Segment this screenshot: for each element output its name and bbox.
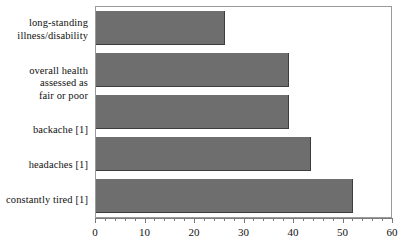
bar-row — [96, 11, 391, 45]
bar — [96, 95, 289, 129]
x-tick-major — [145, 218, 146, 223]
x-tick-major — [194, 218, 195, 223]
x-axis-tick-labels: 0102030405060 — [95, 226, 392, 244]
category-label-line: headaches [1] — [0, 159, 88, 172]
bar-row — [96, 179, 391, 213]
x-tick-major — [392, 218, 393, 223]
x-tick-minor — [313, 218, 314, 221]
category-axis-labels: long-standingillness/disabilityoverall h… — [0, 6, 92, 218]
x-tick-minor — [204, 218, 205, 221]
x-tick-major — [95, 218, 96, 223]
x-tick-major — [293, 218, 294, 223]
x-tick-label: 60 — [387, 226, 398, 238]
bar-row — [96, 95, 391, 129]
bar-chart: long-standingillness/disabilityoverall h… — [0, 0, 411, 252]
category-label-line: backache [1] — [0, 124, 88, 137]
x-tick-minor — [164, 218, 165, 221]
bar-row — [96, 137, 391, 171]
x-tick-minor — [135, 218, 136, 221]
x-tick-minor — [382, 218, 383, 221]
x-tick-label: 0 — [92, 226, 98, 238]
x-tick-minor — [273, 218, 274, 221]
category-label-line: assessed as — [0, 77, 88, 90]
category-label: backache [1] — [0, 124, 92, 137]
category-label-line: fair or poor — [0, 90, 88, 103]
bar — [96, 11, 225, 45]
category-label: headaches [1] — [0, 159, 92, 172]
category-label: overall healthassessed asfair or poor — [0, 65, 92, 103]
x-tick-minor — [303, 218, 304, 221]
x-tick-label: 40 — [288, 226, 299, 238]
x-tick-major — [343, 218, 344, 223]
x-tick-minor — [283, 218, 284, 221]
x-tick-minor — [115, 218, 116, 221]
x-tick-label: 10 — [139, 226, 150, 238]
bar — [96, 137, 311, 171]
category-label-line: illness/disability — [0, 30, 88, 43]
category-label: constantly tired [1] — [0, 194, 92, 207]
plot-area — [95, 6, 392, 218]
x-tick-minor — [105, 218, 106, 221]
x-tick-minor — [333, 218, 334, 221]
x-tick-minor — [362, 218, 363, 221]
bars-container — [96, 7, 391, 217]
bar — [96, 179, 353, 213]
x-tick-minor — [323, 218, 324, 221]
x-tick-minor — [174, 218, 175, 221]
x-tick-minor — [372, 218, 373, 221]
bar-row — [96, 53, 391, 87]
category-label-line: overall health — [0, 65, 88, 78]
x-tick-minor — [234, 218, 235, 221]
x-tick-minor — [224, 218, 225, 221]
x-axis-ticks — [95, 218, 392, 224]
x-tick-label: 30 — [238, 226, 249, 238]
category-label-line: constantly tired [1] — [0, 194, 88, 207]
x-tick-minor — [253, 218, 254, 221]
x-tick-label: 20 — [189, 226, 200, 238]
x-tick-minor — [352, 218, 353, 221]
category-label-line: long-standing — [0, 17, 88, 30]
x-tick-minor — [184, 218, 185, 221]
x-tick-minor — [154, 218, 155, 221]
x-tick-minor — [125, 218, 126, 221]
x-tick-minor — [263, 218, 264, 221]
x-tick-label: 50 — [337, 226, 348, 238]
bar — [96, 53, 289, 87]
category-label: long-standingillness/disability — [0, 17, 92, 42]
x-tick-minor — [214, 218, 215, 221]
x-tick-major — [244, 218, 245, 223]
